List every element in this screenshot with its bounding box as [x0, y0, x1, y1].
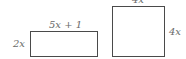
rectangle-height-label: 2x [13, 39, 25, 49]
square [112, 6, 165, 57]
square-top-label: 4x [132, 0, 144, 5]
square-side-label: 4x [169, 27, 181, 37]
rectangle [30, 31, 98, 57]
rectangle-width-label: 5x + 1 [49, 20, 82, 30]
